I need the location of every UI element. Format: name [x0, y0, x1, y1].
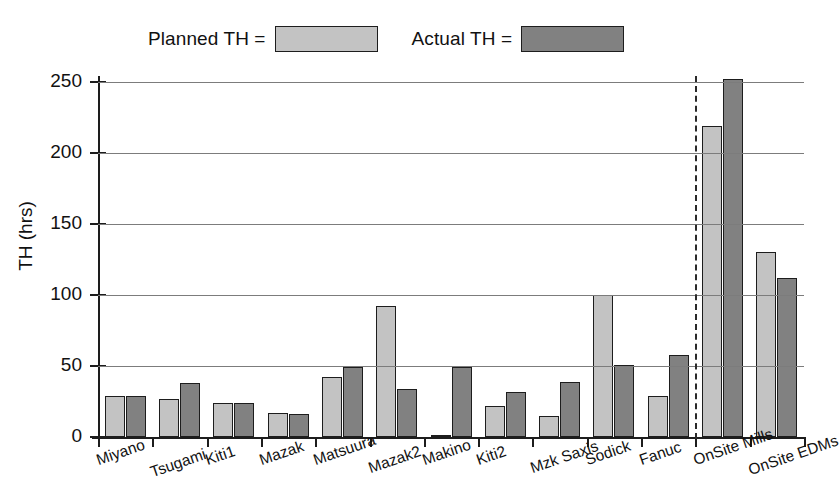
- y-axis-tick-label: 50: [34, 354, 82, 376]
- y-axis-tick-label: 0: [34, 425, 82, 447]
- bar-planned: [431, 435, 451, 437]
- plot-area: [98, 82, 804, 437]
- x-axis-tick: [152, 438, 154, 447]
- y-axis-tick-label: 100: [34, 283, 82, 305]
- bar-planned: [322, 377, 342, 437]
- bar-actual: [126, 396, 146, 437]
- bar-planned: [268, 413, 288, 437]
- gridline: [98, 153, 804, 154]
- gridline: [98, 366, 804, 367]
- x-axis-line: [92, 437, 806, 439]
- bar-actual: [777, 278, 797, 437]
- bar-planned: [376, 306, 396, 437]
- x-axis-tick: [695, 438, 697, 447]
- x-axis-tick: [424, 438, 426, 447]
- x-axis-tick: [207, 438, 209, 447]
- bar-actual: [560, 382, 580, 437]
- bar-series-layer: [98, 82, 804, 437]
- x-axis-tick: [98, 438, 100, 447]
- bar-actual: [397, 389, 417, 437]
- legend-label-planned: Planned TH =: [148, 28, 266, 50]
- bar-actual: [180, 383, 200, 437]
- y-axis-tick-label: 150: [34, 212, 82, 234]
- bar-actual: [234, 403, 254, 437]
- x-axis-tick: [641, 438, 643, 447]
- legend-entry-planned: Planned TH =: [148, 26, 378, 52]
- x-axis-tick: [315, 438, 317, 447]
- bar-planned: [485, 406, 505, 437]
- gridline: [98, 82, 804, 83]
- legend-entry-actual: Actual TH =: [412, 26, 625, 52]
- bar-actual: [343, 367, 363, 437]
- bar-actual: [289, 414, 309, 437]
- dashed-group-divider: [695, 76, 697, 439]
- gridline: [98, 224, 804, 225]
- bar-planned: [159, 399, 179, 437]
- x-axis-label: Fanuc: [637, 438, 684, 469]
- gridline: [98, 295, 804, 296]
- legend-swatch-actual: [521, 26, 624, 52]
- bar-planned: [648, 396, 668, 437]
- legend-swatch-planned: [275, 26, 378, 52]
- x-axis-tick: [478, 438, 480, 447]
- x-axis-tick: [532, 438, 534, 447]
- bar-planned: [213, 403, 233, 437]
- y-axis-tick-label: 250: [34, 70, 82, 92]
- y-axis-tick-label: 200: [34, 141, 82, 163]
- chart-legend: Planned TH = Actual TH =: [148, 24, 624, 54]
- bar-planned: [702, 126, 722, 437]
- x-axis-label: Tsugami: [148, 445, 208, 481]
- x-axis-label: Makino: [420, 436, 473, 469]
- x-axis-label: Mazak: [257, 437, 306, 469]
- bar-planned: [539, 416, 559, 437]
- bar-actual: [723, 79, 743, 437]
- x-axis-tick: [261, 438, 263, 447]
- bar-planned: [756, 252, 776, 437]
- bar-actual: [506, 392, 526, 437]
- bar-planned: [105, 396, 125, 437]
- legend-label-actual: Actual TH =: [412, 28, 513, 50]
- x-axis-label: Miyano: [94, 436, 147, 469]
- bar-actual: [452, 367, 472, 437]
- bar-actual: [614, 365, 634, 437]
